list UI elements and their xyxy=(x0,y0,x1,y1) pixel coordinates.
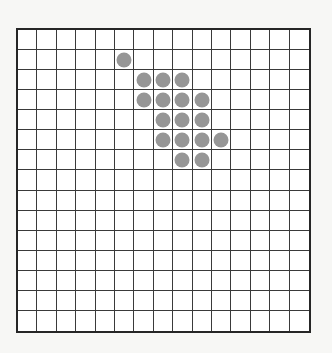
grid-cell-r11-c2[interactable] xyxy=(57,251,76,271)
grid-cell-r5-c10[interactable] xyxy=(212,130,231,150)
grid-cell-r7-c4[interactable] xyxy=(96,170,115,190)
grid-cell-r14-c8[interactable] xyxy=(173,311,192,331)
grid-cell-r5-c13[interactable] xyxy=(270,130,289,150)
grid-cell-r13-c9[interactable] xyxy=(193,291,212,311)
grid-cell-r1-c2[interactable] xyxy=(57,50,76,70)
grid-cell-r14-c14[interactable] xyxy=(290,311,309,331)
grid-cell-r6-c0[interactable] xyxy=(18,150,37,170)
stone-dot[interactable] xyxy=(155,112,170,127)
grid-cell-r2-c10[interactable] xyxy=(212,70,231,90)
grid-cell-r4-c13[interactable] xyxy=(270,110,289,130)
grid-cell-r5-c9[interactable] xyxy=(193,130,212,150)
stone-dot[interactable] xyxy=(175,92,190,107)
grid-cell-r12-c5[interactable] xyxy=(115,271,134,291)
grid-cell-r8-c13[interactable] xyxy=(270,191,289,211)
grid-cell-r10-c2[interactable] xyxy=(57,231,76,251)
grid-cell-r9-c11[interactable] xyxy=(231,211,250,231)
grid-cell-r9-c5[interactable] xyxy=(115,211,134,231)
grid-cell-r1-c13[interactable] xyxy=(270,50,289,70)
grid-cell-r10-c1[interactable] xyxy=(37,231,56,251)
grid-cell-r7-c1[interactable] xyxy=(37,170,56,190)
grid-cell-r9-c0[interactable] xyxy=(18,211,37,231)
grid-cell-r5-c7[interactable] xyxy=(154,130,173,150)
grid-cell-r14-c5[interactable] xyxy=(115,311,134,331)
grid-cell-r11-c5[interactable] xyxy=(115,251,134,271)
grid-cell-r7-c9[interactable] xyxy=(193,170,212,190)
stone-dot[interactable] xyxy=(117,52,132,67)
grid-cell-r0-c11[interactable] xyxy=(231,30,250,50)
grid-cell-r10-c11[interactable] xyxy=(231,231,250,251)
grid-cell-r14-c3[interactable] xyxy=(76,311,95,331)
grid-cell-r11-c3[interactable] xyxy=(76,251,95,271)
grid-cell-r0-c2[interactable] xyxy=(57,30,76,50)
grid-cell-r6-c10[interactable] xyxy=(212,150,231,170)
stone-dot[interactable] xyxy=(175,152,190,167)
grid-cell-r13-c6[interactable] xyxy=(134,291,153,311)
grid-cell-r3-c8[interactable] xyxy=(173,90,192,110)
stone-dot[interactable] xyxy=(136,72,151,87)
grid-cell-r5-c3[interactable] xyxy=(76,130,95,150)
grid-cell-r1-c7[interactable] xyxy=(154,50,173,70)
grid-cell-r4-c1[interactable] xyxy=(37,110,56,130)
grid-cell-r8-c14[interactable] xyxy=(290,191,309,211)
grid-cell-r5-c1[interactable] xyxy=(37,130,56,150)
grid-cell-r7-c14[interactable] xyxy=(290,170,309,190)
grid-cell-r6-c8[interactable] xyxy=(173,150,192,170)
grid-cell-r3-c0[interactable] xyxy=(18,90,37,110)
grid-cell-r12-c2[interactable] xyxy=(57,271,76,291)
grid-cell-r14-c7[interactable] xyxy=(154,311,173,331)
grid-cell-r12-c14[interactable] xyxy=(290,271,309,291)
grid-cell-r8-c8[interactable] xyxy=(173,191,192,211)
grid-cell-r10-c3[interactable] xyxy=(76,231,95,251)
grid-cell-r7-c11[interactable] xyxy=(231,170,250,190)
grid-cell-r13-c4[interactable] xyxy=(96,291,115,311)
grid-cell-r0-c4[interactable] xyxy=(96,30,115,50)
grid-cell-r9-c14[interactable] xyxy=(290,211,309,231)
grid-cell-r10-c6[interactable] xyxy=(134,231,153,251)
grid-cell-r4-c10[interactable] xyxy=(212,110,231,130)
grid-cell-r14-c0[interactable] xyxy=(18,311,37,331)
stone-dot[interactable] xyxy=(175,72,190,87)
grid-cell-r1-c6[interactable] xyxy=(134,50,153,70)
grid-cell-r12-c8[interactable] xyxy=(173,271,192,291)
grid-cell-r10-c10[interactable] xyxy=(212,231,231,251)
grid-cell-r1-c14[interactable] xyxy=(290,50,309,70)
grid-cell-r13-c1[interactable] xyxy=(37,291,56,311)
grid-cell-r0-c3[interactable] xyxy=(76,30,95,50)
grid-cell-r8-c5[interactable] xyxy=(115,191,134,211)
grid-cell-r3-c3[interactable] xyxy=(76,90,95,110)
grid-cell-r9-c13[interactable] xyxy=(270,211,289,231)
grid-cell-r8-c1[interactable] xyxy=(37,191,56,211)
grid-cell-r8-c12[interactable] xyxy=(251,191,270,211)
grid-cell-r13-c10[interactable] xyxy=(212,291,231,311)
grid-cell-r7-c7[interactable] xyxy=(154,170,173,190)
grid-cell-r5-c8[interactable] xyxy=(173,130,192,150)
stone-dot[interactable] xyxy=(155,72,170,87)
grid-cell-r10-c12[interactable] xyxy=(251,231,270,251)
grid-cell-r13-c12[interactable] xyxy=(251,291,270,311)
grid-cell-r0-c1[interactable] xyxy=(37,30,56,50)
grid-cell-r13-c14[interactable] xyxy=(290,291,309,311)
grid-cell-r2-c1[interactable] xyxy=(37,70,56,90)
grid-cell-r11-c14[interactable] xyxy=(290,251,309,271)
stone-dot[interactable] xyxy=(194,152,209,167)
grid-cell-r14-c9[interactable] xyxy=(193,311,212,331)
grid-cell-r7-c6[interactable] xyxy=(134,170,153,190)
grid-cell-r11-c1[interactable] xyxy=(37,251,56,271)
grid-cell-r0-c14[interactable] xyxy=(290,30,309,50)
grid-cell-r9-c8[interactable] xyxy=(173,211,192,231)
grid-cell-r8-c4[interactable] xyxy=(96,191,115,211)
grid-cell-r2-c12[interactable] xyxy=(251,70,270,90)
grid-cell-r8-c11[interactable] xyxy=(231,191,250,211)
grid-cell-r11-c11[interactable] xyxy=(231,251,250,271)
grid-cell-r3-c1[interactable] xyxy=(37,90,56,110)
grid-cell-r1-c1[interactable] xyxy=(37,50,56,70)
grid-cell-r12-c0[interactable] xyxy=(18,271,37,291)
grid-cell-r1-c8[interactable] xyxy=(173,50,192,70)
grid-cell-r14-c11[interactable] xyxy=(231,311,250,331)
grid-cell-r2-c7[interactable] xyxy=(154,70,173,90)
grid-cell-r8-c0[interactable] xyxy=(18,191,37,211)
grid-cell-r2-c8[interactable] xyxy=(173,70,192,90)
grid-cell-r13-c11[interactable] xyxy=(231,291,250,311)
grid-cell-r14-c10[interactable] xyxy=(212,311,231,331)
